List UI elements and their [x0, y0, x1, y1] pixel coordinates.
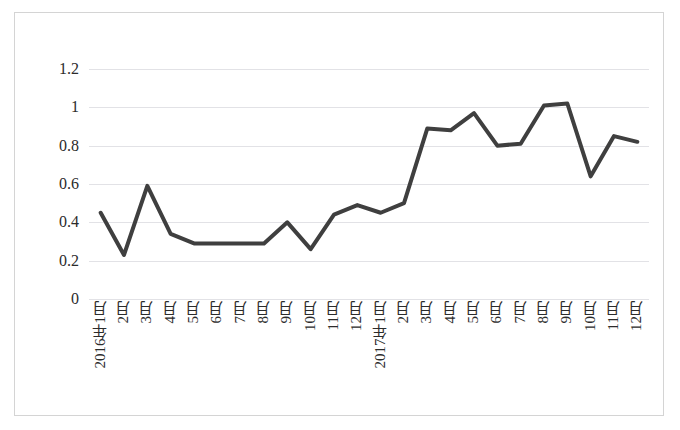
y-axis-tick-label: 0.4 [59, 214, 79, 230]
y-axis-tick-label: 1.2 [59, 61, 79, 77]
x-axis-tick-label: 11月 [326, 301, 341, 330]
y-axis-tick-label: 0.8 [59, 138, 79, 154]
y-axis: 1.210.80.60.40.20 [15, 13, 87, 417]
x-axis-tick-label: 5月 [186, 301, 201, 324]
x-axis-tick-label: 12月 [349, 301, 364, 331]
x-axis-tick-label: 2月 [116, 301, 131, 324]
x-axis-tick-label: 3月 [419, 301, 434, 324]
x-axis-tick-label: 12月 [629, 301, 644, 331]
y-axis-tick-label: 0.2 [59, 253, 79, 269]
x-axis-tick-label: 6月 [489, 301, 504, 324]
x-axis-tick-label: 8月 [536, 301, 551, 324]
y-axis-tick-label: 0.6 [59, 176, 79, 192]
series-polyline [101, 104, 638, 255]
x-axis-tick-label: 7月 [513, 301, 528, 324]
x-axis-tick-label: 11月 [606, 301, 621, 330]
x-axis-tick-label: 10月 [303, 301, 318, 331]
x-axis-tick-label: 2017年1月 [373, 301, 388, 369]
x-axis-tick-label: 4月 [443, 301, 458, 324]
x-axis-tick-label: 10月 [583, 301, 598, 331]
x-axis-tick-label: 6月 [209, 301, 224, 324]
x-axis: 2016年1月2月3月4月5月6月7月8月9月10月11月12月2017年1月2… [89, 301, 649, 417]
chart-frame: 1.210.80.60.40.20 2016年1月2月3月4月5月6月7月8月9… [14, 12, 664, 416]
x-axis-tick-label: 4月 [163, 301, 178, 324]
x-axis-tick-label: 8月 [256, 301, 271, 324]
x-axis-tick-label: 2月 [396, 301, 411, 324]
x-axis-tick-label: 9月 [279, 301, 294, 324]
plot-area: 1.210.80.60.40.20 2016年1月2月3月4月5月6月7月8月9… [15, 13, 665, 417]
x-axis-tick-label: 9月 [559, 301, 574, 324]
y-axis-tick-label: 1 [71, 99, 79, 115]
x-axis-tick-label: 5月 [466, 301, 481, 324]
x-axis-tick-label: 2016年1月 [93, 301, 108, 369]
x-axis-tick-label: 3月 [139, 301, 154, 324]
x-axis-tick-label: 7月 [233, 301, 248, 324]
y-axis-tick-label: 0 [71, 291, 79, 307]
